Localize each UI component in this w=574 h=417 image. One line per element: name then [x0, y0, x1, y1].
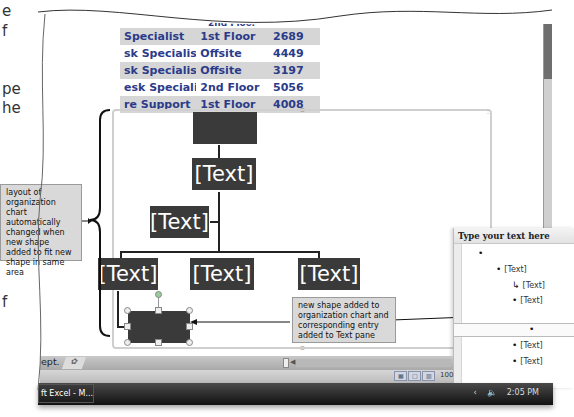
book-page: e f pe he f 2nd Floor Specialist 1st Flo… — [0, 0, 574, 417]
torn-page-edge — [0, 0, 574, 417]
